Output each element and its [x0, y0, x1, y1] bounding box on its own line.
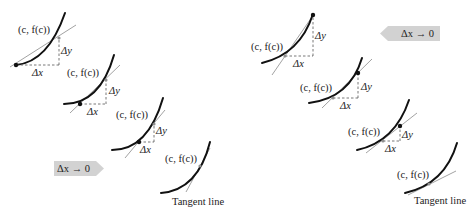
delta-x-label: Δx [31, 67, 43, 78]
point-label: (c, f(c)) [116, 109, 149, 121]
delta-y-label: Δy [401, 129, 413, 140]
function-curve [309, 58, 362, 103]
function-curve [405, 143, 457, 193]
delta-x-to-zero-arrow-right: Δx → 0 [54, 161, 104, 176]
point-c-plus-dx [398, 124, 402, 128]
function-curve [161, 142, 210, 193]
point-label: (c, f(c)) [67, 67, 100, 79]
delta-y-label: Δy [155, 125, 167, 136]
function-curve [16, 13, 65, 65]
point-label: (c, f(c)) [397, 169, 430, 181]
left-panel-4-tangent: (c, f(c)) Tangent line [161, 142, 224, 207]
point-c [331, 96, 334, 99]
secant-to-tangent-diagram: (c, f(c)) Δy Δx (c, f(c)) Δy Δx (c, f(c)… [0, 0, 476, 217]
point-c-plus-dx [57, 36, 60, 39]
right-panel-1: (c, f(c)) Δy Δx [251, 13, 326, 75]
point-label: (c, f(c)) [18, 24, 51, 36]
delta-x-label: Δx [139, 144, 151, 155]
point-c [198, 164, 201, 167]
left-panel-3: (c, f(c)) Δy Δx [112, 98, 167, 158]
left-panel-2: (c, f(c)) Δy Δx [64, 55, 120, 117]
point-label: (c, f(c)) [348, 126, 381, 138]
right-panel-3: (c, f(c)) Δy Δx [348, 100, 417, 154]
delta-x-label: Δx [384, 143, 396, 154]
point-label: (c, f(c)) [165, 153, 198, 165]
point-c [427, 182, 430, 185]
tangent-line-caption: Tangent line [414, 195, 466, 206]
point-c [283, 54, 286, 57]
delta-y-label: Δy [360, 81, 372, 92]
right-panel-4-tangent: (c, f(c)) Tangent line [397, 143, 466, 206]
point-c [78, 102, 82, 106]
arrow-label: Δx → 0 [57, 163, 90, 174]
delta-x-label: Δx [86, 106, 98, 117]
delta-x-label: Δx [292, 58, 304, 69]
point-c [14, 63, 18, 67]
delta-y-label: Δy [60, 45, 72, 56]
right-panel-2: (c, f(c)) Δy Δx [300, 58, 372, 111]
point-label: (c, f(c)) [300, 82, 333, 94]
delta-x-label: Δx [339, 100, 351, 111]
arrow-label: Δx → 0 [401, 28, 434, 39]
point-label: (c, f(c)) [251, 41, 284, 53]
tangent-line-caption: Tangent line [172, 196, 224, 207]
point-c-plus-dx [311, 13, 315, 17]
delta-x-to-zero-arrow-left: Δx → 0 [380, 26, 440, 41]
delta-y-label: Δy [108, 85, 120, 96]
delta-y-label: Δy [314, 30, 326, 41]
point-c-plus-dx [356, 71, 360, 75]
point-c-plus-dx [104, 78, 107, 81]
